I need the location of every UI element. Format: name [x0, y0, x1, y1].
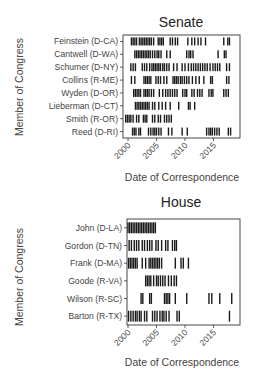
event-mark [166, 115, 167, 123]
event-mark [217, 63, 218, 71]
event-mark [145, 89, 146, 97]
event-mark [228, 89, 229, 97]
event-mark [154, 115, 155, 123]
event-mark [154, 102, 155, 110]
event-mark [151, 240, 152, 251]
event-mark [159, 89, 160, 97]
event-mark [223, 89, 224, 97]
event-mark [155, 258, 156, 269]
event-mark [174, 240, 175, 251]
event-mark [153, 37, 154, 45]
event-mark [147, 102, 148, 110]
event-mark [143, 222, 144, 233]
event-mark [177, 37, 178, 45]
event-mark [132, 37, 133, 45]
event-mark [150, 222, 151, 233]
senate-title: Senate [159, 14, 204, 30]
event-mark [172, 37, 173, 45]
event-mark [217, 50, 218, 58]
event-mark [138, 240, 139, 251]
x-tick-label: 2010 [169, 327, 190, 348]
event-mark [145, 258, 146, 269]
event-mark [141, 222, 142, 233]
event-mark [146, 37, 147, 45]
event-mark [143, 50, 144, 58]
row-label: Barton (R-TX) [69, 311, 123, 321]
event-mark [172, 240, 173, 251]
event-mark [228, 76, 229, 84]
event-mark [150, 128, 151, 136]
event-mark [158, 37, 159, 45]
event-mark [148, 50, 149, 58]
event-mark [188, 50, 189, 58]
event-mark [154, 50, 155, 58]
event-mark [133, 258, 134, 269]
event-mark [147, 37, 148, 45]
event-mark [169, 89, 170, 97]
event-mark [187, 128, 188, 136]
event-mark [141, 50, 142, 58]
event-mark [171, 275, 172, 286]
event-mark [160, 275, 161, 286]
event-mark [188, 63, 189, 71]
senate-y-axis-title: Member of Congress [13, 38, 25, 136]
event-mark [191, 89, 192, 97]
event-mark [167, 240, 168, 251]
event-mark [149, 63, 150, 71]
house-x-ticks: 2000200520102015 [112, 325, 218, 348]
event-mark [195, 63, 196, 71]
event-mark [150, 50, 151, 58]
event-mark [165, 102, 166, 110]
event-mark [132, 128, 133, 136]
event-mark [173, 63, 174, 71]
event-mark [164, 275, 165, 286]
event-mark [219, 293, 220, 304]
event-mark [138, 102, 139, 110]
event-mark [200, 37, 201, 45]
event-mark [212, 63, 213, 71]
event-mark [186, 76, 187, 84]
event-mark [166, 76, 167, 84]
event-mark [125, 115, 126, 123]
event-mark [136, 89, 137, 97]
event-mark [208, 293, 209, 304]
event-mark [158, 275, 159, 286]
event-mark [171, 128, 172, 136]
event-mark [207, 63, 208, 71]
event-mark [179, 311, 180, 322]
event-mark [214, 128, 215, 136]
event-mark [152, 115, 153, 123]
event-mark [140, 293, 141, 304]
event-mark [210, 76, 211, 84]
event-mark [223, 37, 224, 45]
event-mark [176, 89, 177, 97]
event-mark [150, 275, 151, 286]
event-mark [158, 115, 159, 123]
event-mark [140, 102, 141, 110]
event-mark [144, 63, 145, 71]
house-y-axis-title: Member of Congress [13, 228, 25, 326]
event-mark [202, 63, 203, 71]
event-mark [136, 50, 137, 58]
event-mark [144, 37, 145, 45]
event-mark [161, 258, 162, 269]
event-mark [144, 50, 145, 58]
event-mark [183, 258, 184, 269]
event-mark [173, 275, 174, 286]
event-mark [188, 76, 189, 84]
event-mark [230, 128, 231, 136]
event-mark [216, 128, 217, 136]
x-tick-label: 2010 [169, 140, 190, 161]
event-mark [184, 76, 185, 84]
event-mark [209, 63, 210, 71]
event-mark [212, 128, 213, 136]
event-mark [161, 37, 162, 45]
senate-x-ticks: 2000200520102015 [112, 138, 218, 161]
row-label: Schumer (D-NY) [54, 62, 118, 72]
event-mark [229, 37, 230, 45]
event-mark [134, 37, 135, 45]
x-tick-label: 2000 [112, 327, 133, 348]
event-mark [154, 128, 155, 136]
event-mark [192, 50, 193, 58]
event-mark [134, 222, 135, 233]
